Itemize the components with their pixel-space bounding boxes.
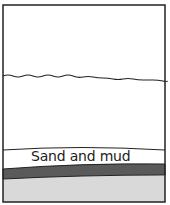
sand-and-mud-label: Sand and mud (31, 148, 130, 164)
bottom-layer (3, 176, 165, 202)
water-surface-wave (3, 75, 167, 82)
sediment-layers-diagram (0, 0, 170, 205)
